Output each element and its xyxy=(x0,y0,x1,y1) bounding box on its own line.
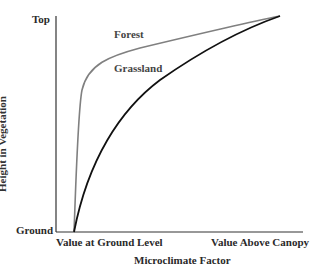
y-tick-ground: Ground xyxy=(16,224,53,236)
forest-curve xyxy=(74,16,280,232)
grassland-label: Grassland xyxy=(114,62,162,74)
forest-label: Forest xyxy=(114,28,144,40)
grassland-curve xyxy=(74,16,280,232)
x-tick-ground-value: Value at Ground Level xyxy=(56,236,163,248)
y-axis-title: Height in Vegetation xyxy=(0,96,8,192)
x-tick-canopy-value: Value Above Canopy xyxy=(211,236,309,248)
x-axis-title: Microclimate Factor xyxy=(134,254,231,266)
y-tick-top: Top xyxy=(32,13,50,25)
